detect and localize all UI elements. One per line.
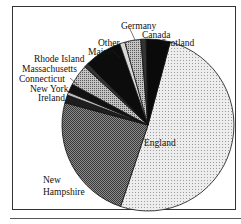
divider [10,218,241,219]
label-massachusetts: Massachusetts [22,64,77,74]
label-rhode-island: Rhode Island [34,54,84,64]
label-scotland: Scotland [161,38,194,48]
label-connecticut: Connecticut [19,74,65,84]
label-ireland: Ireland [38,93,65,103]
label-other: Other [98,38,120,48]
label-new-hampshire-line2: Hampshire [43,187,85,197]
label-new-hampshire-line1: New [43,175,61,185]
label-maine: Maine [88,47,112,57]
label-england: England [144,138,176,148]
label-new-york: New York [30,84,69,94]
pie-chart [0,0,241,224]
